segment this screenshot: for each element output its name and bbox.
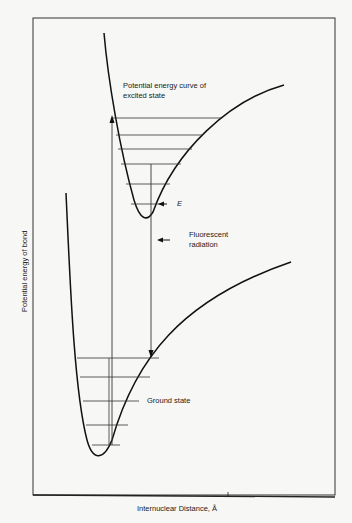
- excited-state-label-line2: excited state: [123, 91, 165, 100]
- x-axis-label: Internuclear Distance, Å: [137, 504, 217, 513]
- ground-state-curve: [66, 193, 291, 456]
- ground-state-label: Ground state: [147, 396, 190, 405]
- fluorescent-label-line2: radiation: [189, 240, 218, 249]
- diagram-canvas: [0, 0, 352, 523]
- excited-state-curve: [104, 33, 284, 218]
- y-axis-label: Potential energy of bond: [20, 231, 29, 312]
- e-label: E: [177, 199, 182, 208]
- excited-vibrational-levels: [112, 118, 221, 204]
- excited-state-label-line1: Potential energy curve of: [123, 81, 206, 90]
- fluorescent-label-line1: Fluorescent: [189, 230, 228, 239]
